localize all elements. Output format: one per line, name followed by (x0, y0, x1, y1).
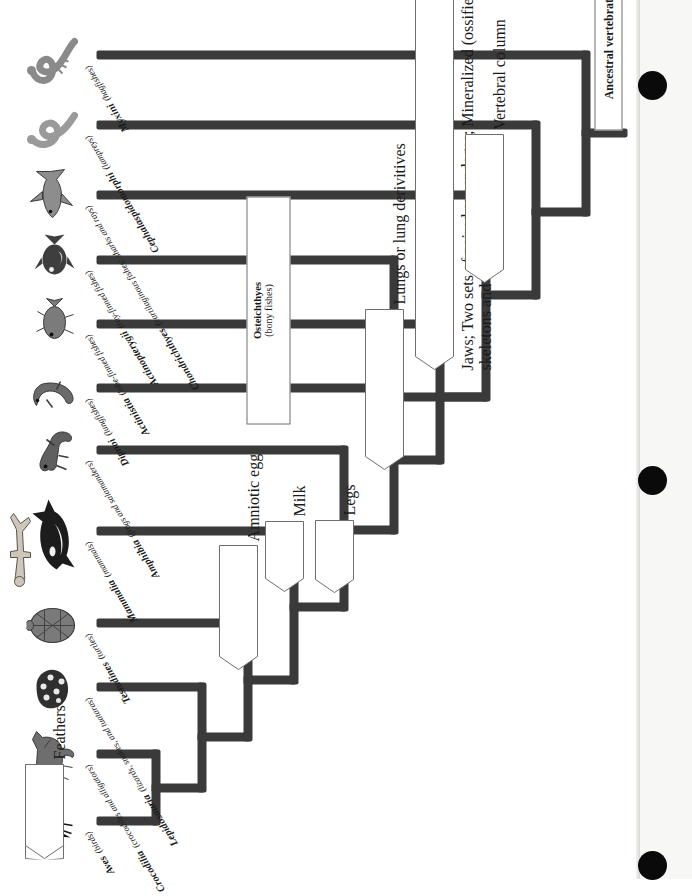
root-label-text: Ancestral vertebrate (601, 0, 616, 99)
clade-box-line2: (bony fishes) (262, 197, 273, 423)
callout-feathers: Feathers (24, 705, 68, 859)
callout-label: Feathers (50, 705, 67, 759)
lungfish-silhouette (26, 363, 78, 415)
branch-tip-amphibia (96, 445, 346, 454)
taxon-common: (turtles) (82, 631, 106, 661)
tip-label-aves: Aves (birds) (77, 828, 117, 879)
taxon-genus: Aves (96, 854, 116, 877)
callout-vertebral-column: Vertebral column (464, 19, 508, 283)
rayfin-fish-silhouette (32, 233, 76, 283)
callout-label: Lungs or lung derivitives (390, 143, 407, 304)
shark-silhouette (26, 167, 78, 223)
taxon-genus: Dipnoi (106, 436, 131, 468)
clade-box-osteichthyes: Osteichthyes (bony fishes) (246, 196, 290, 424)
stem-archosauria (151, 783, 204, 792)
taxon-common: (cartilaginous fishes: sharks and rays) (82, 203, 162, 327)
callout-legs: Legs (314, 484, 358, 593)
whale-silhouette (30, 495, 78, 575)
human-silhouette (4, 509, 34, 587)
taxon-genus: Chondrichthyes (155, 326, 201, 392)
callout-lungs: Lungs or lung derivitives (364, 143, 408, 470)
taxon-genus: Mammalia (104, 578, 138, 625)
stem-reptilia (243, 675, 296, 684)
coelacanth-silhouette (32, 297, 76, 347)
tip-label-testudines: Testudines (turtles) (77, 630, 133, 708)
taxon-common: (mammals) (82, 539, 111, 579)
callout-label: Milk (290, 485, 307, 516)
stem-sauria (197, 732, 250, 741)
branch-tip-myxini (96, 50, 588, 59)
taxon-common: (lampreys) (82, 133, 110, 171)
callout-label: Amniotic egg (244, 453, 261, 541)
taxon-common: (lungfishes) (82, 396, 112, 438)
clade-box-line1: Osteichthyes (251, 197, 262, 423)
hagfish-silhouette (22, 31, 80, 87)
taxon-common: (hagfishes) (82, 63, 111, 102)
callout-milk: Milk (264, 485, 308, 592)
root-label: Ancestral vertebrate (594, 0, 622, 130)
frog-silhouette (32, 425, 76, 479)
callout-label: Vertebral column (490, 19, 507, 130)
lamprey-silhouette (24, 103, 80, 153)
stem-vertebrata (531, 207, 588, 216)
callout-label: Legs (340, 484, 357, 515)
taxon-genus: Crocodilia (133, 848, 166, 894)
taxon-genus: Amphibia (129, 537, 161, 580)
taxon-common: (birds) (82, 829, 103, 855)
taxon-genus: Actinistia (120, 396, 151, 438)
stem-amniota (289, 602, 346, 611)
callout-amniotic-egg: Amniotic egg (218, 453, 262, 670)
turtle-silhouette (26, 599, 78, 651)
